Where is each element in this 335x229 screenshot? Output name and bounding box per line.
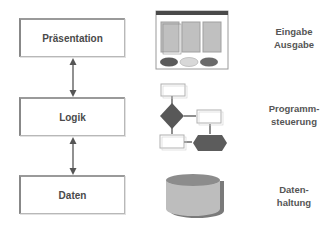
description-logic: Programm- steuerung	[258, 102, 330, 128]
description-presentation: Eingabe Ausgabe	[258, 25, 330, 51]
description-line: Programm-	[258, 102, 330, 115]
description-line: haltung	[258, 196, 330, 209]
description-line: Ausgabe	[258, 38, 330, 51]
description-line: steuerung	[258, 115, 330, 128]
database-cylinder-icon	[164, 173, 226, 221]
layer-label-data: Daten	[59, 190, 87, 201]
window-form-icon	[155, 10, 231, 72]
bidirectional-arrow-icon	[68, 137, 78, 175]
layer-box-logic: Logik	[19, 97, 125, 136]
description-line: Eingabe	[258, 25, 330, 38]
layer-label-logic: Logik	[59, 112, 86, 123]
description-data: Daten- haltung	[258, 183, 330, 209]
flowchart-icon	[158, 82, 230, 152]
description-line: Daten-	[258, 183, 330, 196]
layer-box-presentation: Präsentation	[19, 18, 125, 57]
layer-label-presentation: Präsentation	[42, 33, 103, 44]
layer-box-data: Daten	[19, 175, 125, 214]
bidirectional-arrow-icon	[68, 58, 78, 97]
